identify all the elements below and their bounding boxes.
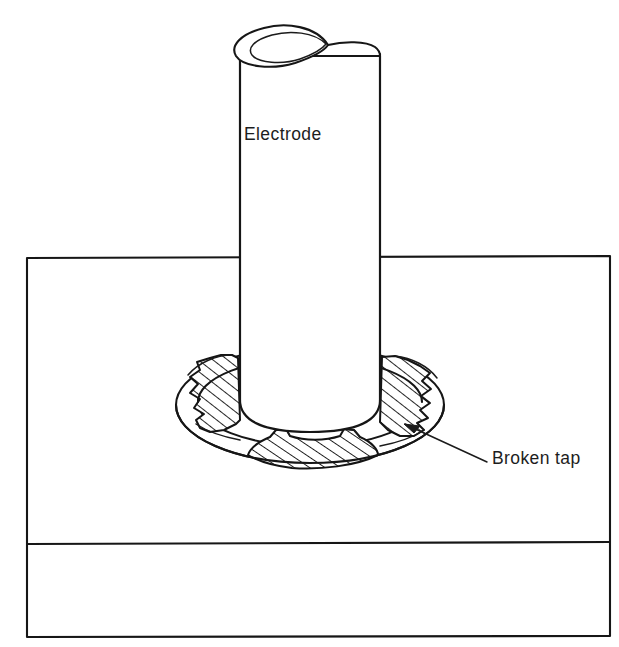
electrode-body bbox=[240, 56, 380, 432]
figure-root: Electrode Broken tap bbox=[0, 0, 619, 647]
broken-tap-label: Broken tap bbox=[492, 448, 581, 469]
electrode bbox=[234, 25, 380, 432]
electrode-top-right-lip bbox=[328, 42, 380, 56]
diagram-canvas bbox=[0, 0, 619, 647]
electrode-label: Electrode bbox=[244, 124, 322, 145]
